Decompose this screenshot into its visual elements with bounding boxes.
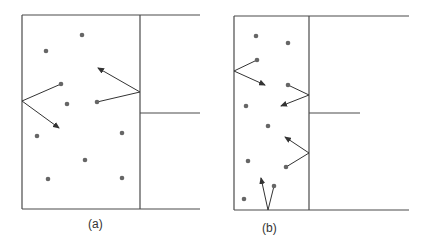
molecule-dot (284, 165, 289, 170)
molecule-dot (286, 41, 291, 46)
reflected-path-arrow (261, 178, 268, 210)
molecule-dot (35, 134, 40, 139)
molecule-dot (254, 34, 259, 39)
incident-path (286, 153, 309, 167)
reflected-path-arrow (98, 68, 140, 92)
molecule-dot (286, 83, 291, 88)
reflected-path-arrow (285, 137, 309, 153)
molecule-dot (244, 104, 249, 109)
incident-path (234, 60, 257, 71)
panel-b (234, 16, 409, 210)
reflected-path-arrow (22, 101, 59, 128)
molecule-dot (120, 131, 125, 136)
molecule-dot (266, 124, 271, 129)
molecule-dot (59, 82, 64, 87)
molecule-dot (246, 159, 251, 164)
molecule-dot (242, 197, 247, 202)
reflected-path-arrow (234, 71, 265, 85)
molecule-dot (120, 176, 125, 181)
panel-a-label: (a) (88, 217, 103, 231)
molecule-dot (80, 33, 85, 38)
molecule-dot (46, 177, 51, 182)
reflected-path-arrow (281, 95, 309, 106)
molecule-dot (255, 58, 260, 63)
incident-path (268, 186, 274, 210)
incident-path (97, 92, 140, 102)
incident-path (288, 85, 309, 95)
molecule-dot (65, 102, 70, 107)
panel-b-label: (b) (262, 221, 277, 235)
diagram-canvas (0, 0, 428, 246)
molecule-dot (44, 49, 49, 54)
molecule-dot (83, 158, 88, 163)
incident-path (22, 84, 61, 101)
panel-a (22, 15, 200, 209)
molecule-dot (95, 100, 100, 105)
molecule-dot (272, 184, 277, 189)
